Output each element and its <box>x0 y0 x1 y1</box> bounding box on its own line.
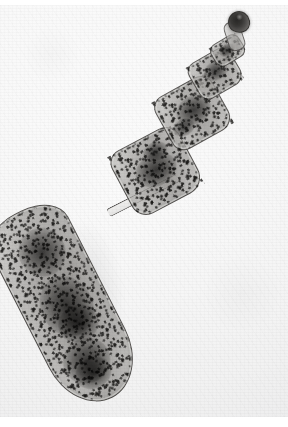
scolex <box>226 9 253 36</box>
egg-cluster-apex <box>55 330 119 392</box>
neck <box>222 19 247 53</box>
tone-overlay <box>0 5 288 417</box>
uterine-mass-pg3 <box>130 146 183 195</box>
egg-stipple-pg3 <box>107 123 205 220</box>
uterine-mass-pg2b <box>170 115 197 141</box>
uterine-mass-pg1 <box>200 56 230 85</box>
specimen-shadow <box>18 15 268 413</box>
egg-stipple-pg0 <box>208 33 246 69</box>
rostellum-highlight <box>235 13 243 21</box>
tapeworm-specimen <box>0 5 288 417</box>
mature-proglottid-1 <box>150 71 236 155</box>
immature-proglottid-1 <box>207 31 248 69</box>
photomicrograph-plate: Grayscale photomicrograph of an adult ta… <box>0 0 288 427</box>
egg-stipple-pg2 <box>151 72 234 153</box>
gravid-proglottid <box>0 193 151 417</box>
background-mottling <box>0 5 288 417</box>
uterine-mass-pg3b <box>140 138 171 166</box>
cuticle-rim-gravid <box>0 194 149 416</box>
cuticle-rim-pg3 <box>107 123 205 220</box>
film-grain-overlay <box>0 5 288 417</box>
photo-field <box>0 5 288 417</box>
egg-cluster-mid <box>29 267 103 346</box>
egg-stipple-pg1 <box>185 45 244 102</box>
uterine-mass-pg2 <box>171 89 215 130</box>
egg-cluster-upper <box>10 219 74 284</box>
egg-stipple-gravid <box>0 194 149 416</box>
egg-cluster-apex2 <box>70 350 117 394</box>
cuticle-rim-pg2 <box>151 72 234 153</box>
immature-proglottid-2 <box>184 44 246 104</box>
egg-cluster-band <box>52 298 105 349</box>
cuticle-rim-pg0 <box>208 33 246 69</box>
segment-junction <box>106 174 180 217</box>
mature-proglottid-2 <box>106 121 207 220</box>
uterine-mass-pg0 <box>217 41 237 59</box>
cuticle-rim-pg1 <box>185 45 244 102</box>
